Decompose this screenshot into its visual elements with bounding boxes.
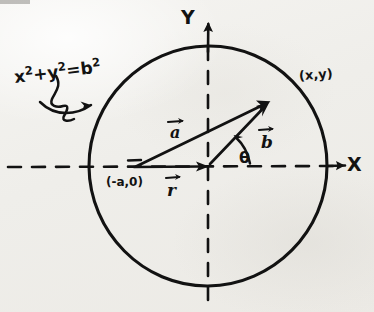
vector-b-label: b [257,124,279,149]
theta-angle-label: θ [239,150,250,166]
left-point-label: (-a,0) [106,176,143,188]
diagram-page: x2+y2=b2 Y X (x,y) (-a,0) a b [0,0,374,312]
vector-r-letter: a [170,123,180,142]
vector-r [136,101,271,167]
equation-b-exponent: 2 [91,55,101,70]
y-axis-label: Y [181,8,195,27]
vector-r-label: a [166,116,188,139]
x-axis-arrowhead-icon [327,161,345,170]
left-point-tick [128,160,141,161]
vector-geometry-drawing [0,0,374,312]
vector-b-letter: b [261,132,273,152]
circle-point-label: (x,y) [299,67,334,82]
vector-a-label: r [164,172,186,197]
x-axis-label: X [347,155,362,174]
vector-a-letter: r [167,180,177,200]
